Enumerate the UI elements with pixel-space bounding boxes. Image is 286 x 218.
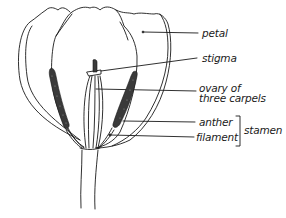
left-filament-2 (66, 130, 82, 148)
label-stigma: stigma (202, 53, 237, 63)
flower-illustration (0, 0, 286, 218)
label-stamen: stamen (244, 125, 282, 135)
ovary-leader (96, 89, 196, 91)
label-anther: anther (199, 117, 232, 127)
right-back-petal-inner (112, 14, 168, 146)
ovary-carpel-line-2 (93, 76, 95, 148)
label-petal: petal (202, 28, 228, 38)
label-filament: filament (196, 132, 238, 142)
ovary-carpel-line-1 (88, 76, 92, 148)
petal-leader (143, 32, 198, 33)
flower-diagram: petal stigma ovary of three carpels anth… (0, 0, 286, 218)
stem-right (95, 150, 98, 209)
filament-leader (110, 135, 194, 137)
left-anther (49, 68, 69, 128)
stigma-leader (101, 58, 197, 71)
label-ovary: ovary of three carpels (199, 83, 266, 103)
anther-leader (123, 121, 195, 122)
filament-marker (109, 134, 111, 136)
central-petal-fold (56, 14, 72, 36)
style (93, 60, 97, 72)
ovary-carpel-line-3 (96, 76, 99, 148)
ovary-outline-left (84, 76, 90, 148)
petal-marker (142, 31, 144, 33)
stem-left (81, 150, 82, 208)
